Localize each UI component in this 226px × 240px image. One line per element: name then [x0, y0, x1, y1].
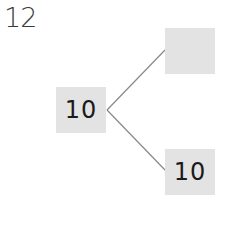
root-value: 10: [65, 96, 98, 124]
bottom-branch-box: 10: [165, 149, 215, 195]
bottom-branch-value: 10: [174, 158, 207, 186]
top-branch-box-blank[interactable]: [165, 28, 215, 74]
connector-top: [107, 50, 165, 110]
connector-bottom: [107, 110, 165, 170]
root-box: 10: [56, 87, 106, 133]
